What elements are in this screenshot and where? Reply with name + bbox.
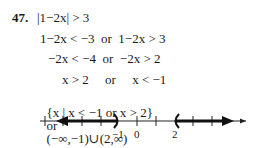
arrow-left-icon: [56, 116, 68, 126]
label-neg1: −1: [112, 129, 124, 140]
label-2: 2: [172, 129, 178, 140]
arrow-right-icon: [222, 116, 234, 126]
number-line: [0, 0, 254, 148]
label-0: 0: [134, 129, 140, 140]
axis-arrow-right-icon: [240, 119, 246, 124]
